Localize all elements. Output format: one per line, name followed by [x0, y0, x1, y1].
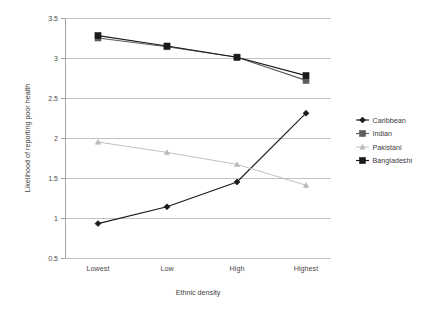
datapoint-bangladeshi-low [164, 43, 170, 49]
x-tick-label-high: High [230, 264, 245, 273]
y-tick-label-1.5: 1.5 [48, 175, 58, 182]
datapoint-bangladeshi-lowest [95, 33, 101, 39]
legend-marker-caribbean [360, 117, 366, 123]
y-tick-label-2: 2 [54, 135, 58, 142]
x-axis-title: Ethnic density [176, 288, 221, 297]
y-axis-title: Likelihood of reporting poor health [23, 84, 32, 193]
chart-figure: 3.5 3 2.5 2 1.5 1 0.5 Lowest Low High Hi… [0, 0, 430, 318]
legend-item-indian[interactable]: Indian [356, 129, 392, 138]
datapoint-bangladeshi-highest [303, 73, 309, 79]
x-tick-label-highest: Highest [294, 264, 318, 273]
legend-label-pakistani: Pakistani [373, 143, 403, 152]
y-axis [61, 18, 65, 258]
legend-marker-indian [360, 131, 366, 137]
legend-item-caribbean[interactable]: Caribbean [356, 116, 406, 125]
legend-label-indian: Indian [373, 129, 393, 138]
x-tick-label-low: Low [160, 264, 174, 273]
line-chart: 3.5 3 2.5 2 1.5 1 0.5 Lowest Low High Hi… [0, 0, 430, 318]
y-tick-label-3.5: 3.5 [48, 15, 58, 22]
legend-item-bangladeshi[interactable]: Bangladeshi [356, 156, 412, 165]
legend-marker-bangladeshi [360, 158, 366, 164]
y-tick-label-3: 3 [54, 55, 58, 62]
legend-item-pakistani[interactable]: Pakistani [356, 143, 402, 152]
x-tick-labels: Lowest Low High Highest [87, 264, 319, 273]
legend-label-bangladeshi: Bangladeshi [373, 156, 413, 165]
legend-label-caribbean: Caribbean [373, 116, 406, 125]
y-tick-labels: 3.5 3 2.5 2 1.5 1 0.5 [48, 15, 58, 262]
chart-legend: CaribbeanIndianPakistaniBangladeshi [356, 116, 412, 166]
y-tick-label-2.5: 2.5 [48, 95, 58, 102]
datapoint-bangladeshi-high [234, 54, 240, 60]
y-tick-label-1: 1 [54, 215, 58, 222]
y-tick-label-0.5: 0.5 [48, 255, 58, 262]
x-tick-label-lowest: Lowest [87, 264, 110, 273]
